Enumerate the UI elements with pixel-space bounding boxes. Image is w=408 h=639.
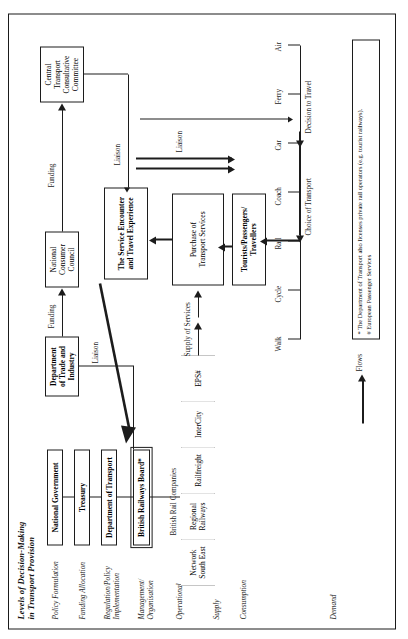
dti-line1: Department: [49, 347, 58, 386]
box-department-of-trade-and-industry[interactable]: Department of Trade and Industry: [45, 336, 79, 396]
flow-label-liaison-travellers: Liaison: [176, 130, 184, 152]
dti-line2: of Trade and: [58, 346, 67, 387]
connector-ctcc-down: [84, 73, 128, 74]
box-department-of-transport[interactable]: Department of Transport: [101, 449, 117, 545]
mode-label-car: Car: [275, 140, 283, 150]
box-purchase-of-transport-services[interactable]: Purchase of Transport Services: [172, 193, 224, 285]
box-service-encounter-and-travel-experience[interactable]: The Service Encounter and Travel Experie…: [104, 187, 148, 279]
arrow-supply-2: [198, 295, 200, 317]
figure-title: Levels of Decision-Making in Transport P…: [16, 521, 37, 619]
nse-line1: Network: [189, 549, 198, 575]
flow-label-liaison-brb: Liaison: [92, 341, 100, 363]
flow-label-supply-of-services: Supply of Services: [184, 302, 192, 356]
arrowhead-funding-ctcc: [58, 103, 66, 110]
pots-line2: Transport Services: [198, 211, 207, 267]
arrow-purchase-to-service-encounter: [156, 238, 172, 240]
connector-dot-brb: [117, 496, 133, 497]
level-label-regulation-policy-implementation: Regulation/Policy Implementation: [104, 566, 121, 619]
level-label-funding-allocation: Funding Allocation: [79, 561, 88, 619]
company-intercity[interactable]: InterCity: [181, 401, 215, 447]
mode-label-coach: Coach: [275, 187, 283, 205]
level-label-management-organisation: Management/ Organisation: [138, 578, 155, 619]
box-treasury[interactable]: Treasury: [74, 449, 90, 545]
connector-natgov-treasury: [63, 496, 74, 497]
flow-label-liaison-service-encounter: Liaison: [114, 143, 122, 165]
tpt-line1: Tourists/Passengers/: [240, 206, 249, 271]
ctcc-line4: Committee: [71, 57, 80, 90]
arrowhead-funding-ncc: [58, 288, 66, 295]
flow-label-decision-to-travel: Decision to Travel: [305, 80, 313, 133]
arrowhead-demand-long: [288, 116, 293, 122]
ncc-line2: Consumer: [58, 244, 67, 275]
company-eps[interactable]: EPS#: [181, 355, 215, 401]
mode-label-cycle: Cycle: [275, 285, 283, 302]
figure-title-line2: in Transport Provision: [26, 521, 36, 619]
ncc-line1: National: [49, 246, 58, 272]
box-central-transport-consultative-committee[interactable]: Central Transport Consultative Committee: [40, 46, 84, 102]
label-british-rail-companies: British Rail Companies: [170, 468, 178, 535]
mode-label-walk: Walk: [275, 336, 283, 351]
box-british-railways-board[interactable]: British Railways Board*: [133, 449, 150, 545]
connector-treasury-dot: [90, 496, 101, 497]
footnote-line2: # European Passenger Services: [364, 44, 373, 334]
level-label-supply: Supply: [213, 599, 222, 619]
box-national-government[interactable]: National Government: [47, 449, 63, 545]
ncc-line3: Council: [67, 247, 76, 271]
level-label-demand: Demand: [330, 594, 339, 619]
level-label-regulation-line2: Implementation: [113, 566, 122, 619]
ctcc-line2: Transport: [53, 60, 62, 89]
arrowhead-rail-to-travellers: [260, 237, 267, 245]
legend-label-flows: Flows: [356, 353, 364, 371]
rr-line2: Railways: [198, 502, 207, 530]
arrowhead-travellers-to-purchase: [218, 243, 225, 251]
pots-line1: Purchase of: [189, 221, 198, 256]
level-label-consumption: Consumption: [240, 580, 249, 619]
figure-title-line1: Levels of Decision-Making: [16, 521, 26, 619]
arrowhead-decision-to-travel: [296, 140, 304, 147]
footnote-line1: * The Department of Transport also licen…: [355, 44, 364, 334]
level-label-operational: Operational: [176, 583, 185, 619]
box-national-consumer-council[interactable]: National Consumer Council: [45, 231, 79, 287]
footnote-box: * The Department of Transport also licen…: [352, 39, 380, 339]
arrow-supply-1: [198, 327, 200, 355]
arrowhead-choice-of-transport: [296, 235, 304, 242]
arrowhead-liaison-a: [228, 165, 235, 173]
nse-line2: South East: [198, 546, 207, 578]
mode-tick-cycle: [288, 289, 300, 290]
mode-tick-walk: [288, 338, 300, 339]
mode-tick-ferry: [288, 93, 300, 94]
arrow-funding-ncc-to-ctcc: [62, 108, 64, 231]
arrowhead-supply-1: [194, 322, 202, 329]
liaison-line-b: [136, 157, 232, 159]
legend-flow-bar: [362, 379, 364, 423]
company-network-south-east[interactable]: Network South East: [181, 539, 215, 585]
dti-line3: Industry: [67, 352, 76, 380]
arrowhead-service-encounter-up: [149, 236, 156, 244]
company-railfreight[interactable]: Railfreight: [181, 447, 215, 493]
ctcc-line3: Consultative: [62, 55, 71, 93]
arrow-funding-dti-to-ncc: [62, 293, 64, 336]
flow-label-funding-ctcc: Funding: [48, 163, 56, 187]
se-line1: The Service Encounter: [117, 196, 126, 269]
connector-demand-long: [140, 118, 290, 119]
rotated-figure-canvas: Levels of Decision-Making in Transport P…: [0, 0, 408, 639]
flow-label-funding-dti-ncc: Funding: [48, 304, 56, 328]
mode-label-air: Air: [275, 41, 283, 51]
flow-label-choice-of-transport: Choice of Transport: [305, 178, 313, 236]
se-line2: and Travel Experience: [126, 197, 135, 269]
arrowhead-service-encounter-left: [124, 187, 130, 192]
legend-flow-arrowhead: [358, 374, 366, 381]
ctcc-line1: Central: [44, 63, 53, 85]
level-label-policy-formulation: Policy Formulation: [52, 561, 61, 619]
arrowhead-supply-2: [194, 290, 202, 297]
level-label-management-line2: Organisation: [147, 578, 156, 619]
arrow-liaison-ncc-to-brb: [96, 279, 138, 449]
tpt-line2: Travellers: [249, 223, 258, 255]
figure-page: Levels of Decision-Making in Transport P…: [0, 0, 408, 639]
arrowhead-liaison-b: [228, 155, 235, 163]
liaison-line-a: [136, 167, 232, 169]
mode-tick-air: [288, 44, 300, 45]
company-regional-railways[interactable]: Regional Railways: [181, 493, 215, 539]
connector-ctcc-to-service-encounter: [128, 74, 129, 187]
mode-label-ferry: Ferry: [275, 88, 283, 104]
